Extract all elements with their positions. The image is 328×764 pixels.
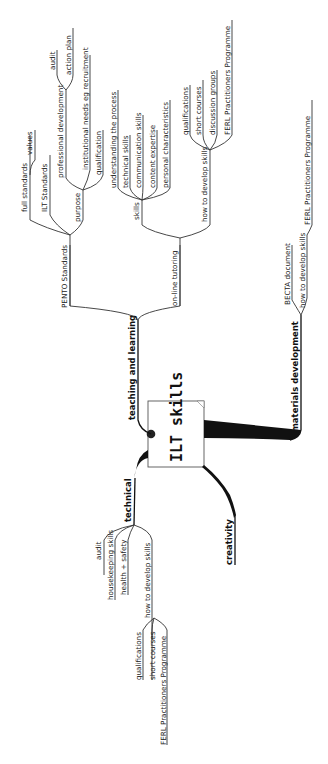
materials-development-label: materials development bbox=[290, 321, 300, 432]
housekeeping-skills-label: housekeeping skills bbox=[106, 530, 115, 600]
qualification-label: qualification bbox=[94, 131, 103, 175]
central-node-label: ILT skills bbox=[168, 372, 186, 462]
branch-pento-standards[interactable]: PENTO Standards full standards values IL… bbox=[20, 28, 103, 308]
institutional-needs-label: institutional needs eg recruitment bbox=[81, 47, 90, 170]
becta-document-label: BECTA document bbox=[283, 243, 292, 305]
understanding-process-label: understanding the process bbox=[109, 92, 118, 188]
ferl-programme-label: FERL Practitioners Programme bbox=[223, 25, 232, 135]
tech-ferl-label: FERL Practitioners Programme bbox=[159, 635, 168, 745]
technical-label: technical bbox=[123, 478, 133, 522]
audit-label: audit bbox=[48, 51, 57, 70]
skills-label: skills bbox=[132, 202, 141, 220]
pento-label: PENTO Standards bbox=[60, 245, 69, 308]
qualifications-label: qualifications bbox=[181, 87, 190, 135]
branch-materials-development[interactable]: materials development BECTA document how… bbox=[204, 100, 312, 440]
mind-map: ILT skills teaching and learning PENTO S… bbox=[0, 0, 328, 764]
branch-creativity[interactable]: creativity bbox=[202, 465, 236, 565]
full-standards-label: full standards bbox=[20, 163, 29, 212]
creativity-label: creativity bbox=[224, 519, 234, 565]
professional-development-label: professional development bbox=[56, 85, 65, 178]
communication-skills-label: communication skills bbox=[134, 112, 143, 188]
teaching-label: teaching and learning bbox=[127, 315, 137, 420]
branch-online-tutoring[interactable]: on-line tutoring skills understanding th… bbox=[109, 20, 232, 306]
materials-ferl-label: FERL Practitioners Programme bbox=[303, 115, 312, 225]
action-plan-label: action plan bbox=[64, 35, 73, 75]
central-node[interactable]: ILT skills bbox=[148, 372, 204, 467]
content-expertise-label: content expertise bbox=[148, 124, 157, 188]
tech-short-courses-label: short courses bbox=[148, 631, 157, 680]
tech-audit-label: audit bbox=[94, 541, 103, 560]
materials-how-to-develop-label: how to develop skills bbox=[298, 233, 307, 308]
purpose-label: purpose bbox=[73, 192, 82, 222]
how-to-develop-skills-label: how to develop skills bbox=[200, 147, 209, 222]
short-courses-label: short courses bbox=[194, 86, 203, 135]
tech-how-to-develop-label: how to develop skills bbox=[143, 543, 152, 618]
discussion-groups-label: discussion groups bbox=[208, 71, 217, 135]
values-label: values bbox=[25, 131, 34, 155]
tech-qualifications-label: qualifications bbox=[134, 632, 143, 680]
ilt-standards-label: ILT Standards bbox=[40, 163, 49, 212]
online-tutoring-label: on-line tutoring bbox=[170, 251, 179, 306]
technical-skills-label: technical skills bbox=[121, 135, 130, 188]
branch-technical[interactable]: technical audit housekeeping skills heal… bbox=[94, 450, 168, 745]
health-safety-label: health + safety bbox=[119, 539, 128, 595]
personal-characteristics-label: personal characteristics bbox=[161, 102, 170, 188]
